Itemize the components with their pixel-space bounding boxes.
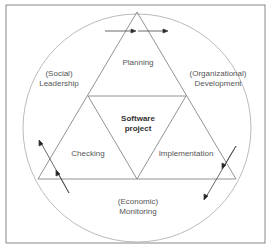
phase-implementation: Implementation [159, 149, 214, 159]
label-social-leadership: (Social)Leadership [39, 69, 79, 89]
phase-checking: Checking [71, 149, 104, 159]
monitoring-line: Monitoring [119, 207, 156, 216]
label-economic-monitoring: (Economic)Monitoring [118, 197, 158, 217]
software-line: Software [121, 114, 155, 123]
label-organizational-development: (Organizational)Development [190, 69, 247, 89]
center-label: Softwareproject [121, 114, 155, 134]
phase-planning: Planning [122, 58, 153, 68]
social-line: (Social) [45, 69, 72, 78]
economic-line: (Economic) [118, 197, 158, 206]
organizational-line: (Organizational) [190, 69, 247, 78]
inner-triangle [88, 96, 186, 179]
development-line: Development [194, 79, 241, 88]
leadership-line: Leadership [39, 79, 79, 88]
project-line: project [125, 124, 152, 133]
